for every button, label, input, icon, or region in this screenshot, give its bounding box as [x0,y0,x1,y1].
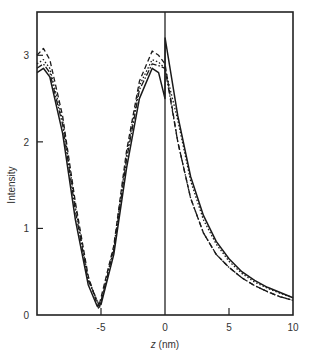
x-tick-label: -5 [97,322,106,333]
y-tick-label: 1 [23,223,29,234]
y-axis-ticks: 0123 [23,50,43,321]
x-axis-unit: (nm) [156,339,179,350]
x-axis-ticks: -50510 [97,308,299,333]
y-axis-title: Intensity [6,166,17,203]
x-tick-label: 5 [226,322,232,333]
intensity-chart: 0123 -50510 Intensity z (nm) [0,0,310,355]
x-tick-label: 0 [162,322,168,333]
y-tick-label: 2 [23,137,29,148]
y-tick-label: 0 [23,310,29,321]
x-axis-title: z (nm) [150,339,179,350]
x-tick-label: 10 [287,322,299,333]
y-tick-label: 3 [23,50,29,61]
